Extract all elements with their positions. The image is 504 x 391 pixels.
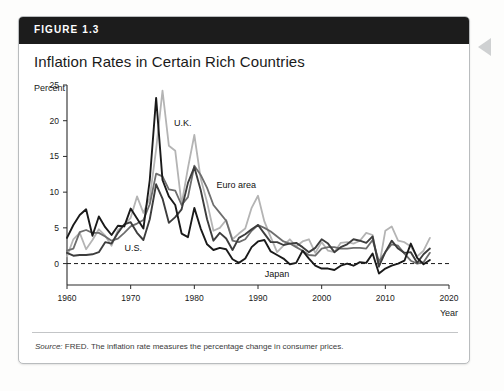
y-tick-label: 10 [50, 187, 60, 197]
y-tick-label: 20 [50, 116, 60, 126]
source-prefix: Source: [35, 342, 63, 351]
x-tick-label: 1960 [58, 293, 77, 303]
x-tick-label: 1980 [185, 293, 204, 303]
series-annotation-u-k: U.K. [174, 118, 192, 128]
y-tick-label: 25 [50, 80, 60, 90]
page-arrow-icon [478, 38, 491, 56]
x-axis-title: Year [440, 308, 458, 318]
y-tick-label: 5 [54, 223, 59, 233]
source-divider [32, 332, 458, 333]
source-note: Source: FRED. The inflation rate measure… [35, 342, 343, 351]
x-tick-label: 2020 [440, 293, 459, 303]
series-annotation-japan: Japan [265, 269, 290, 279]
figure-number-label: FIGURE 1.3 [34, 24, 99, 35]
y-tick-label: 15 [50, 151, 60, 161]
page-title: Inflation Rates in Certain Rich Countrie… [34, 53, 305, 70]
x-tick-label: 1970 [121, 293, 140, 303]
series-annotation-u-s: U.S. [124, 243, 142, 253]
y-tick-label: 0 [54, 259, 59, 269]
series-annotation-euro-area: Euro area [217, 180, 257, 190]
page-root: and some negative text FIGURE 1.3 Inflat… [0, 0, 504, 391]
figure-card: FIGURE 1.3 Inflation Rates in Certain Ri… [18, 16, 470, 364]
x-tick-label: 2000 [312, 293, 331, 303]
x-tick-label: 2010 [376, 293, 395, 303]
line-chart: 05101520251960197019801990200020102020U.… [19, 75, 470, 333]
x-tick-label: 1990 [249, 293, 268, 303]
chart-plot-area: 05101520251960197019801990200020102020U.… [19, 75, 470, 333]
source-text: FRED. The inflation rate measures the pe… [65, 342, 344, 351]
